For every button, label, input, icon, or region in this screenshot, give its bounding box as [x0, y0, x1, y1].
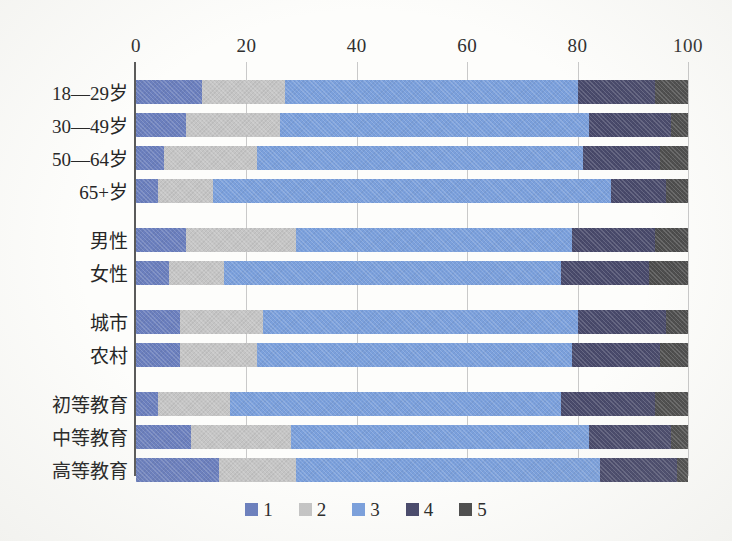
bar-segment-5[interactable] [671, 425, 688, 449]
bar-row[interactable] [136, 310, 688, 334]
legend-label: 2 [317, 500, 327, 519]
category-label: 农村 [0, 347, 128, 366]
legend-item-5[interactable]: 5 [459, 500, 487, 519]
bar-segment-2[interactable] [180, 343, 257, 367]
bar-segment-2[interactable] [219, 458, 296, 482]
bar-segment-1[interactable] [136, 458, 219, 482]
bar-segment-5[interactable] [660, 343, 688, 367]
bar-segment-3[interactable] [291, 425, 589, 449]
bar-segment-3[interactable] [263, 310, 578, 334]
bar-segment-3[interactable] [257, 343, 572, 367]
legend-label: 3 [370, 500, 380, 519]
bar-segment-2[interactable] [202, 80, 285, 104]
bar-segment-5[interactable] [655, 228, 688, 252]
legend-item-4[interactable]: 4 [406, 500, 434, 519]
bar-segment-4[interactable] [572, 343, 660, 367]
bar-segment-2[interactable] [191, 425, 290, 449]
bar-segment-3[interactable] [257, 146, 583, 170]
bar-segment-1[interactable] [136, 392, 158, 416]
x-tick-label-0: 0 [131, 35, 141, 57]
bar-rows [136, 66, 688, 476]
bar-segment-4[interactable] [561, 392, 655, 416]
legend-swatch-3 [352, 503, 365, 516]
legend-label: 1 [263, 500, 273, 519]
bar-segment-2[interactable] [180, 310, 263, 334]
bar-segment-1[interactable] [136, 146, 164, 170]
bar-row[interactable] [136, 228, 688, 252]
bar-segment-3[interactable] [285, 80, 578, 104]
bar-segment-1[interactable] [136, 425, 191, 449]
category-label: 男性 [0, 232, 128, 251]
bar-row[interactable] [136, 146, 688, 170]
bar-segment-2[interactable] [158, 392, 230, 416]
bar-segment-5[interactable] [655, 392, 688, 416]
bar-segment-1[interactable] [136, 179, 158, 203]
bar-segment-1[interactable] [136, 80, 202, 104]
legend-swatch-4 [406, 503, 419, 516]
x-tick-label-20: 20 [236, 35, 256, 57]
plot-area: 020406080100 [136, 66, 688, 476]
bar-row[interactable] [136, 179, 688, 203]
legend-swatch-1 [245, 503, 258, 516]
legend-item-1[interactable]: 1 [245, 500, 273, 519]
x-tick-label-100: 100 [673, 35, 703, 57]
category-label: 城市 [0, 314, 128, 333]
bar-segment-5[interactable] [666, 179, 688, 203]
legend-item-3[interactable]: 3 [352, 500, 380, 519]
bar-segment-2[interactable] [169, 261, 224, 285]
bar-segment-4[interactable] [572, 228, 655, 252]
bar-segment-5[interactable] [655, 80, 688, 104]
legend-item-2[interactable]: 2 [299, 500, 327, 519]
bar-row[interactable] [136, 113, 688, 137]
category-label: 高等教育 [0, 462, 128, 481]
bar-segment-4[interactable] [589, 113, 672, 137]
bar-row[interactable] [136, 458, 688, 482]
bar-row[interactable] [136, 343, 688, 367]
chart-legend: 12345 [0, 500, 732, 519]
bar-row[interactable] [136, 261, 688, 285]
category-label: 65+岁 [0, 183, 128, 202]
bar-segment-1[interactable] [136, 228, 186, 252]
bar-segment-3[interactable] [230, 392, 561, 416]
bar-segment-2[interactable] [158, 179, 213, 203]
category-label: 18—29岁 [0, 84, 128, 103]
category-axis-labels: 18—29岁30—49岁50—64岁65+岁男性女性城市农村初等教育中等教育高等… [0, 66, 128, 476]
legend-label: 4 [424, 500, 434, 519]
bar-segment-4[interactable] [589, 425, 672, 449]
bar-segment-1[interactable] [136, 113, 186, 137]
bar-segment-1[interactable] [136, 310, 180, 334]
bar-segment-4[interactable] [600, 458, 677, 482]
bar-segment-3[interactable] [224, 261, 561, 285]
x-tick-label-40: 40 [347, 35, 367, 57]
bar-segment-4[interactable] [578, 80, 655, 104]
gridline-100 [688, 62, 689, 476]
bar-segment-3[interactable] [296, 228, 572, 252]
bar-segment-1[interactable] [136, 261, 169, 285]
bar-segment-3[interactable] [280, 113, 589, 137]
bar-segment-4[interactable] [578, 310, 666, 334]
bar-segment-5[interactable] [666, 310, 688, 334]
bar-segment-2[interactable] [186, 113, 280, 137]
bar-segment-3[interactable] [213, 179, 610, 203]
bar-row[interactable] [136, 425, 688, 449]
chart-page: 18—29岁30—49岁50—64岁65+岁男性女性城市农村初等教育中等教育高等… [0, 0, 732, 541]
bar-segment-1[interactable] [136, 343, 180, 367]
bar-segment-4[interactable] [561, 261, 649, 285]
bar-row[interactable] [136, 392, 688, 416]
bar-segment-2[interactable] [186, 228, 296, 252]
bar-segment-4[interactable] [583, 146, 660, 170]
legend-swatch-5 [459, 503, 472, 516]
x-tick-label-80: 80 [568, 35, 588, 57]
bar-segment-2[interactable] [164, 146, 258, 170]
bar-row[interactable] [136, 80, 688, 104]
category-label: 女性 [0, 265, 128, 284]
bar-segment-5[interactable] [649, 261, 688, 285]
bar-segment-5[interactable] [671, 113, 688, 137]
category-label: 中等教育 [0, 429, 128, 448]
bar-segment-3[interactable] [296, 458, 600, 482]
legend-label: 5 [477, 500, 487, 519]
bar-segment-5[interactable] [660, 146, 688, 170]
bar-segment-4[interactable] [611, 179, 666, 203]
category-label: 30—49岁 [0, 117, 128, 136]
bar-segment-5[interactable] [677, 458, 688, 482]
